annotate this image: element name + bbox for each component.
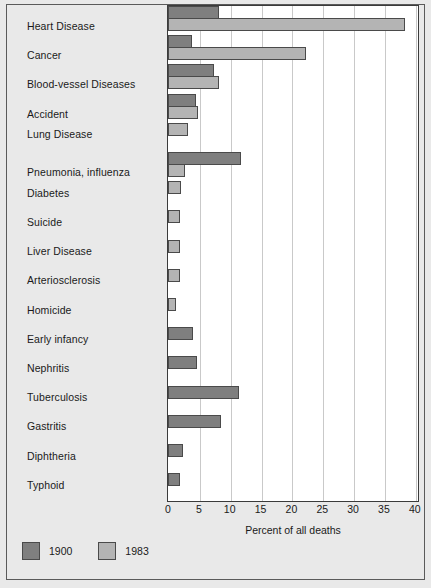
category-label: Liver Disease xyxy=(27,245,92,257)
bar-1900 xyxy=(168,386,239,399)
x-tick-label: 10 xyxy=(224,503,236,515)
bar-1983 xyxy=(168,106,198,119)
chart-row: Lung Disease xyxy=(0,123,431,152)
category-label: Blood-vessel Diseases xyxy=(27,78,135,90)
category-label: Suicide xyxy=(27,216,62,228)
x-tick-label: 5 xyxy=(196,503,202,515)
chart-row: Homicide xyxy=(0,298,431,327)
x-tick-label: 20 xyxy=(286,503,298,515)
chart-row: Liver Disease xyxy=(0,240,431,269)
chart-row: Nephritis xyxy=(0,356,431,385)
category-label: Diphtheria xyxy=(27,450,76,462)
bar-1983 xyxy=(168,123,188,136)
legend-item: 1983 xyxy=(98,542,148,560)
x-axis-ticks: 0510152025303540 xyxy=(0,503,431,521)
x-axis-title: Percent of all deaths xyxy=(167,524,419,536)
bar-1983 xyxy=(168,240,180,253)
category-label: Pneumonia, influenza xyxy=(27,166,130,178)
chart-row: Pneumonia, influenza xyxy=(0,152,431,181)
chart-row: Heart Disease xyxy=(0,6,431,35)
chart-row: Diabetes xyxy=(0,181,431,210)
x-tick-label: 0 xyxy=(165,503,171,515)
legend-label-1983: 1983 xyxy=(125,545,148,557)
category-label: Gastritis xyxy=(27,420,66,432)
bar-1983 xyxy=(168,298,176,311)
chart-row: Blood-vessel Diseases xyxy=(0,64,431,93)
legend-item: 1900 xyxy=(22,542,72,560)
bar-1983 xyxy=(168,164,185,177)
bar-1983 xyxy=(168,181,181,194)
bar-1900 xyxy=(168,444,183,457)
x-tick-label: 35 xyxy=(378,503,390,515)
category-label: Lung Disease xyxy=(27,128,92,140)
bar-1900 xyxy=(168,327,193,340)
chart-row: Arteriosclerosis xyxy=(0,269,431,298)
chart-figure: Heart DiseaseCancerBlood-vessel Diseases… xyxy=(0,0,431,588)
x-tick-label: 25 xyxy=(316,503,328,515)
x-tick-label: 15 xyxy=(255,503,267,515)
category-label: Nephritis xyxy=(27,362,69,374)
bar-1900 xyxy=(168,356,197,369)
chart-legend: 19001983 xyxy=(22,540,175,562)
bar-1900 xyxy=(168,415,221,428)
bar-1900 xyxy=(168,473,180,486)
category-label: Homicide xyxy=(27,304,72,316)
bar-1983 xyxy=(168,47,306,60)
legend-swatch-1900 xyxy=(22,542,40,560)
chart-row: Early infancy xyxy=(0,327,431,356)
category-label: Tuberculosis xyxy=(27,391,87,403)
category-label: Arteriosclerosis xyxy=(27,274,100,286)
chart-row: Gastritis xyxy=(0,415,431,444)
category-label: Accident xyxy=(27,108,68,120)
chart-row: Diphtheria xyxy=(0,444,431,473)
category-label: Early infancy xyxy=(27,333,88,345)
bar-1983 xyxy=(168,76,219,89)
chart-rows: Heart DiseaseCancerBlood-vessel Diseases… xyxy=(0,0,431,588)
category-label: Diabetes xyxy=(27,187,69,199)
category-label: Heart Disease xyxy=(27,20,95,32)
chart-row: Cancer xyxy=(0,35,431,64)
chart-row: Accident xyxy=(0,94,431,123)
bar-1983 xyxy=(168,18,405,31)
bar-1983 xyxy=(168,269,180,282)
category-label: Typhoid xyxy=(27,479,64,491)
x-tick-label: 40 xyxy=(409,503,421,515)
chart-row: Suicide xyxy=(0,210,431,239)
x-tick-label: 30 xyxy=(347,503,359,515)
chart-row: Typhoid xyxy=(0,473,431,502)
legend-label-1900: 1900 xyxy=(49,545,72,557)
category-label: Cancer xyxy=(27,49,61,61)
bar-1983 xyxy=(168,210,180,223)
chart-row: Tuberculosis xyxy=(0,386,431,415)
legend-swatch-1983 xyxy=(98,542,116,560)
